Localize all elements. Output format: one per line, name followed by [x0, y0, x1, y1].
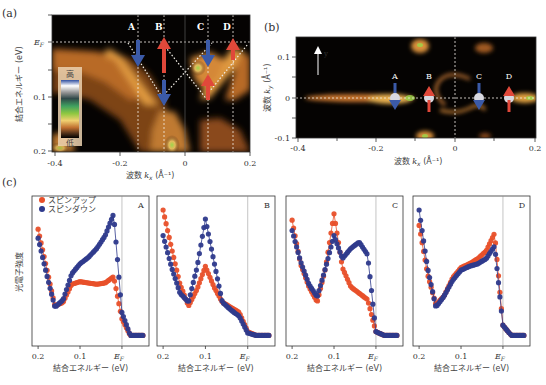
panel-b: (b) y — [261, 21, 541, 167]
legend-spin-up-marker — [39, 197, 45, 203]
panel-a-ylabel: 結合エネルギー (eV) — [14, 46, 24, 121]
legend-spin-up-label: スピンアップ — [48, 196, 96, 205]
panel-c-ylabel: 光電子強度 — [14, 252, 24, 292]
panel-c-xlabel: 結合エネルギー (eV) — [53, 363, 128, 373]
xtick-0: 0 — [182, 159, 187, 168]
edc-subpanel-a: A0.20.1EF結合エネルギー (eV) — [32, 196, 149, 373]
ytick-b-0.1: 0.1 — [277, 53, 290, 62]
xtick-neg0.4: -0.4 — [47, 159, 62, 168]
panel-a: (a) — [2, 7, 256, 181]
xtick-c: 0.2 — [32, 352, 45, 361]
edc-subpanel-c: C0.20.1EF結合エネルギー (eV) — [286, 196, 403, 373]
xtick-c: 0.1 — [74, 352, 87, 361]
point-label-a: A — [391, 72, 398, 81]
panel-b-label: (b) — [264, 21, 280, 34]
subpanel-label: A — [137, 201, 144, 210]
xtick-b-neg0.2: -0.2 — [368, 144, 383, 153]
panel-a-label: (a) — [2, 7, 17, 20]
panel-c-xlabel: 結合エネルギー (eV) — [178, 363, 253, 373]
panel-c: (c) 光電子強度 A0.20.1EF結合エネルギー (eV)B0.20.1EF… — [2, 176, 530, 373]
point-label-d: D — [506, 72, 512, 81]
xtick-b-0: 0 — [452, 144, 457, 153]
panel-a-heatmap: A B C D 高 低 — [50, 15, 250, 155]
xtick-b-0.2: 0.2 — [529, 144, 542, 153]
xtick-c: 0.1 — [328, 352, 341, 361]
xtick-c-ef: EF — [113, 352, 125, 362]
panel-c-xlabel: 結合エネルギー (eV) — [434, 363, 509, 373]
ytick-b-0: 0 — [285, 94, 290, 103]
ytick-ef: EF — [33, 38, 45, 48]
y-direction-label: y — [323, 50, 328, 58]
legend-spin-down-label: スピンダウン — [48, 204, 96, 214]
xtick-c: 0.1 — [455, 352, 468, 361]
subpanel-label: C — [392, 201, 398, 210]
panel-a-xlabel: 波数 kx (Å⁻¹) — [126, 169, 175, 181]
panel-c-xlabel: 結合エネルギー (eV) — [307, 363, 382, 373]
ytick-0.1: 0.1 — [33, 93, 46, 102]
cut-label-c: C — [197, 22, 204, 32]
legend: スピンアップ スピンダウン — [39, 196, 96, 214]
xtick-c: 0.2 — [157, 352, 170, 361]
legend-spin-down-marker — [39, 206, 45, 212]
xtick-c: 0.2 — [286, 352, 299, 361]
edc-subpanel-d: D0.20.1EF結合エネルギー (eV) — [413, 196, 530, 373]
point-label-c: C — [476, 72, 482, 81]
xtick-b-neg0.4: -0.4 — [290, 144, 305, 153]
cut-label-a: A — [127, 22, 136, 32]
edc-subpanel-b: B0.20.1EF結合エネルギー (eV) — [157, 196, 275, 373]
xtick-c-ef: EF — [494, 352, 506, 362]
panel-c-label: (c) — [2, 176, 17, 189]
panel-b-ylabel: 波数 ky (Å⁻¹) — [261, 64, 274, 113]
panel-b-heatmap: y A B C D — [296, 37, 539, 141]
ytick-0.2: 0.2 — [33, 147, 46, 156]
xtick-neg0.2: -0.2 — [112, 159, 127, 168]
xtick-c: 0.2 — [413, 352, 426, 361]
xtick-c-ef: EF — [239, 352, 251, 362]
xtick-c-ef: EF — [367, 352, 379, 362]
xtick-0.2: 0.2 — [244, 159, 257, 168]
edc-panels: A0.20.1EF結合エネルギー (eV)B0.20.1EF結合エネルギー (e… — [32, 196, 530, 373]
figure: (a) — [0, 0, 546, 385]
colorbar-low-label: 低 — [66, 138, 74, 148]
cut-label-b: B — [155, 22, 163, 32]
panel-b-xlabel: 波数 kx (Å⁻¹) — [394, 155, 443, 167]
point-label-b: B — [426, 72, 432, 81]
ytick-b-neg0.1: -0.1 — [275, 134, 290, 143]
colorbar: 高 低 — [58, 67, 82, 148]
subpanel-label: D — [519, 201, 525, 210]
colorbar-high-label: 高 — [66, 69, 74, 79]
subpanel-label: B — [264, 201, 270, 210]
xtick-c: 0.1 — [199, 352, 212, 361]
cut-label-d: D — [223, 22, 231, 32]
